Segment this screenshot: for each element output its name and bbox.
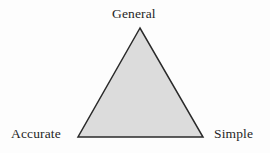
triangle-polygon xyxy=(78,28,203,137)
triangle-diagram: General Accurate Simple xyxy=(0,0,270,153)
vertex-label-general: General xyxy=(112,6,156,21)
vertex-label-simple: Simple xyxy=(214,126,253,141)
vertex-label-accurate: Accurate xyxy=(11,126,61,141)
